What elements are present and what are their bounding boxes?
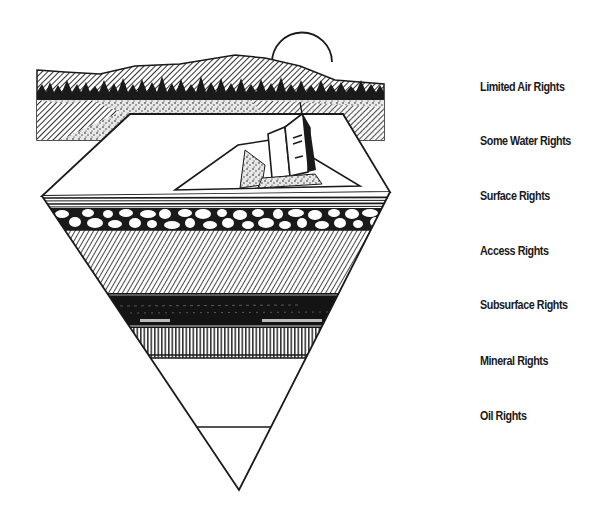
label-subsurface-rights: Subsurface Rights — [480, 298, 568, 312]
rights-labels: Limited Air Rights Some Water Rights Sur… — [0, 0, 614, 508]
label-limited-air-rights: Limited Air Rights — [480, 80, 564, 94]
label-oil-rights: Oil Rights — [480, 409, 526, 423]
label-access-rights: Access Rights — [480, 244, 549, 258]
label-some-water-rights: Some Water Rights — [480, 134, 571, 148]
label-mineral-rights: Mineral Rights — [480, 354, 548, 368]
label-surface-rights: Surface Rights — [480, 189, 550, 203]
